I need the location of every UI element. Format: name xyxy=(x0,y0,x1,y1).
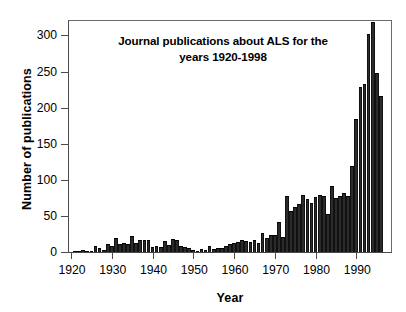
y-axis-tick-label: 200 xyxy=(37,101,57,115)
bar xyxy=(379,96,383,252)
y-axis-tick-label: 100 xyxy=(37,173,57,187)
y-axis-tick-label: 300 xyxy=(37,28,57,42)
x-axis-title: Year xyxy=(68,291,392,305)
y-axis-tick: 100 xyxy=(61,180,68,181)
y-axis-tick: 300 xyxy=(61,35,68,36)
y-axis-tick-label: 0 xyxy=(50,245,57,259)
als-publications-figure: Number of publications Journal publicati… xyxy=(0,0,406,312)
x-axis-tick: 1950 xyxy=(193,252,194,259)
x-axis-tick: 1990 xyxy=(356,252,357,259)
y-axis-tick-label: 250 xyxy=(37,65,57,79)
plot-area: Journal publications about ALS for the y… xyxy=(68,20,392,253)
y-axis-tick: 50 xyxy=(61,216,68,217)
x-axis-tick-label: 1990 xyxy=(333,263,381,277)
x-axis-tick: 1930 xyxy=(112,252,113,259)
y-axis-tick: 150 xyxy=(61,144,68,145)
y-axis-tick: 250 xyxy=(61,72,68,73)
x-axis-tick: 1940 xyxy=(153,252,154,259)
y-axis-title: Number of publications xyxy=(20,24,34,254)
x-axis-tick: 1960 xyxy=(234,252,235,259)
x-axis-tick: 1980 xyxy=(316,252,317,259)
y-axis-tick: 200 xyxy=(61,108,68,109)
bar-series xyxy=(69,21,391,252)
x-axis-tick: 1920 xyxy=(71,252,72,259)
y-axis-tick: 0 xyxy=(61,252,68,253)
y-axis-tick-label: 150 xyxy=(37,137,57,151)
y-axis-tick-label: 50 xyxy=(43,209,57,223)
x-axis-tick: 1970 xyxy=(275,252,276,259)
